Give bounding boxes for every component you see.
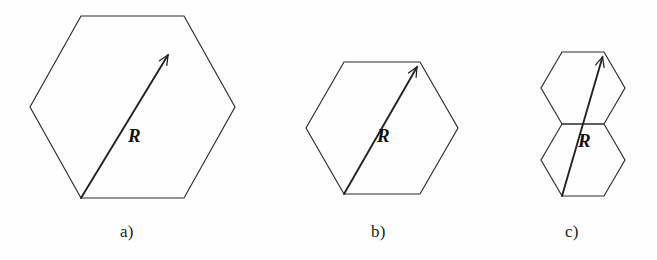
panel-c-group: [541, 52, 625, 196]
panel-caption-c: c): [565, 222, 579, 242]
panel-caption-a: a): [120, 222, 134, 242]
panel-a-group: [30, 16, 235, 198]
hexagon-c-top: [541, 52, 625, 124]
vector-label-b: R: [377, 125, 390, 147]
vector-R-a-shaft: [81, 55, 168, 198]
panel-caption-b: b): [371, 222, 386, 242]
hexagon-vector-diagram: [0, 0, 657, 260]
vector-R-c-shaft: [562, 57, 603, 196]
vector-label-a: R: [128, 125, 141, 147]
figure-root: R R R a) b) c): [0, 0, 657, 260]
vector-label-c: R: [578, 130, 591, 152]
hexagon-a: [30, 16, 235, 198]
